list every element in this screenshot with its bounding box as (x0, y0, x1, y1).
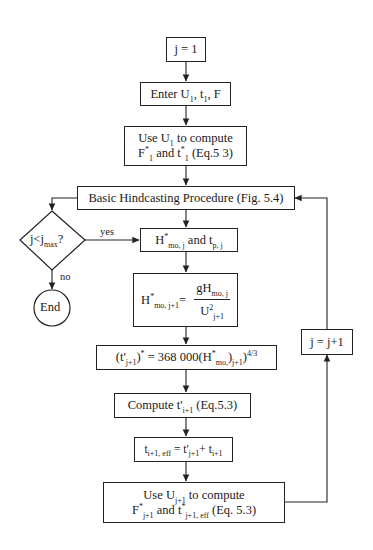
tprime-text: (t'j+1)* = 368 000(H*mo,)j+1)4/3 (116, 350, 257, 365)
compute-text: Compute t'i+1 (Eq.5.3) (128, 398, 238, 413)
start-text: j = 1 (174, 42, 197, 57)
tprime-formula-box: (t'j+1)* = 368 000(H*mo,)j+1)4/3 (96, 345, 277, 370)
end-text: End (40, 300, 60, 315)
teff-box: ti+1, eff = t'j+1+ ti+1 (134, 437, 233, 462)
hmo-tp-box: H*mo, j and tp, j (140, 228, 238, 252)
no-label: no (60, 271, 71, 282)
use-u1-line2: F*1 and t*1 (Eq.5 3) (138, 146, 233, 161)
use-uj-box: Use Uj+1 to compute F*j+1 and t*j+1, eff… (103, 482, 285, 523)
increment-text: j = j+1 (310, 335, 344, 350)
yes-label: yes (100, 226, 114, 237)
basic-hindcasting-text: Basic Hindcasting Procedure (Fig. 5.4) (88, 191, 283, 206)
enter-inputs-box: Enter U1, t1, F (140, 82, 231, 106)
use-uj-line2: F*j+1 and t*j+1, eff (Eq. 5.3) (132, 503, 256, 518)
formula-lhs: H*mo, j+1= (141, 293, 186, 308)
enter-text: Enter U1, t1, F (150, 87, 220, 102)
basic-hindcasting-box: Basic Hindcasting Procedure (Fig. 5.4) (77, 186, 295, 210)
hmo-tp-text: H*mo, j and tp, j (155, 233, 223, 248)
start-box: j = 1 (166, 37, 206, 62)
hmo-formula-box: H*mo, j+1= gHmo, j U2j+1 (133, 273, 238, 327)
use-u1-line1: Use U1 to compute (138, 131, 233, 146)
use-uj-line1: Use Uj+1 to compute (143, 488, 244, 503)
increment-j-box: j = j+1 (301, 329, 353, 355)
use-u1-box: Use U1 to compute F*1 and t*1 (Eq.5 3) (124, 126, 247, 166)
compute-tprime-box: Compute t'i+1 (Eq.5.3) (114, 393, 251, 418)
formula-fraction: gHmo, j U2j+1 (194, 281, 230, 319)
teff-text: ti+1, eff = t'j+1+ ti+1 (144, 443, 222, 457)
decision-text: j<jmax? (30, 232, 63, 247)
